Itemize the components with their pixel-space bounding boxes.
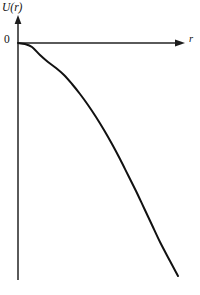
y-axis-arrowhead	[15, 15, 22, 24]
y-axis-label: U(r)	[2, 2, 22, 14]
x-axis-arrowhead	[175, 39, 185, 46]
x-axis-label: r	[189, 34, 193, 45]
plot-canvas	[0, 0, 200, 295]
caption-fragment	[30, 285, 170, 294]
origin-tick-label: 0	[4, 34, 10, 46]
potential-energy-figure: U(r) r 0	[0, 0, 200, 295]
potential-curve	[18, 43, 178, 276]
